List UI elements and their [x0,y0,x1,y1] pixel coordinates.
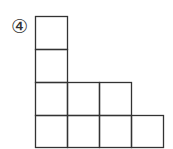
cell [132,116,164,148]
cell [100,83,132,116]
cell [36,50,68,83]
cell [36,116,68,148]
cell [68,83,100,116]
cell [68,116,100,148]
cell [100,116,132,148]
square-grid-figure [0,0,173,149]
cell [36,83,68,116]
cell [36,17,68,50]
